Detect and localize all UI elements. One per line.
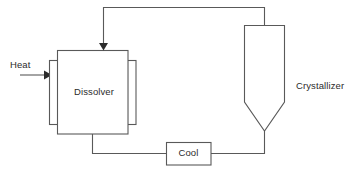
recycle-inlet-arrow-icon — [99, 43, 108, 51]
dissolver-left-jacket — [50, 61, 59, 125]
heat-stream-label: Heat — [10, 60, 30, 70]
dissolver-to-cool-line — [93, 134, 167, 154]
dissolver-label: Dissolver — [62, 87, 126, 97]
process-flow-diagram: Heat Dissolver Cool Crystallizer — [0, 0, 355, 172]
cool-to-crystallizer-line — [211, 131, 265, 154]
crystallizer-vessel — [245, 26, 285, 132]
dissolver-right-jacket — [128, 61, 137, 125]
crystallizer-label: Crystallizer — [296, 81, 344, 91]
cool-label: Cool — [166, 148, 211, 158]
recycle-overhead-line — [104, 8, 265, 45]
